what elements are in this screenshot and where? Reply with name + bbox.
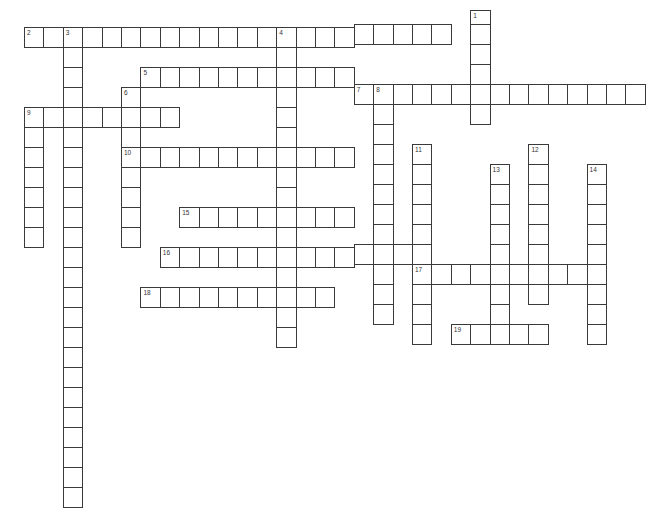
crossword-cell[interactable] bbox=[490, 224, 510, 245]
crossword-cell[interactable] bbox=[82, 107, 102, 128]
crossword-cell[interactable] bbox=[257, 147, 277, 168]
crossword-cell[interactable] bbox=[63, 207, 83, 228]
crossword-cell[interactable] bbox=[63, 487, 83, 508]
crossword-cell[interactable] bbox=[470, 44, 490, 65]
crossword-cell[interactable] bbox=[257, 67, 277, 88]
crossword-cell[interactable] bbox=[412, 24, 432, 45]
crossword-cell[interactable] bbox=[548, 84, 568, 105]
crossword-cell[interactable] bbox=[587, 204, 607, 225]
crossword-cell[interactable] bbox=[490, 304, 510, 325]
crossword-cell[interactable] bbox=[470, 264, 490, 285]
crossword-cell[interactable] bbox=[412, 244, 432, 265]
crossword-cell[interactable] bbox=[160, 67, 180, 88]
crossword-cell[interactable] bbox=[470, 324, 490, 345]
crossword-cell[interactable] bbox=[237, 287, 257, 308]
crossword-cell[interactable] bbox=[63, 147, 83, 168]
crossword-cell[interactable] bbox=[218, 27, 238, 48]
crossword-cell[interactable]: 11 bbox=[412, 144, 432, 165]
crossword-cell[interactable]: 7 bbox=[354, 84, 374, 105]
crossword-cell[interactable] bbox=[431, 24, 451, 45]
crossword-cell[interactable] bbox=[276, 47, 296, 68]
crossword-cell[interactable] bbox=[412, 324, 432, 345]
crossword-cell[interactable] bbox=[606, 84, 626, 105]
crossword-cell[interactable] bbox=[276, 87, 296, 108]
crossword-cell[interactable] bbox=[315, 67, 335, 88]
crossword-cell[interactable] bbox=[528, 284, 548, 305]
crossword-cell[interactable] bbox=[412, 164, 432, 185]
crossword-cell[interactable] bbox=[470, 84, 490, 105]
crossword-cell[interactable] bbox=[63, 127, 83, 148]
crossword-cell[interactable] bbox=[567, 264, 587, 285]
crossword-cell[interactable] bbox=[412, 224, 432, 245]
crossword-cell[interactable] bbox=[490, 244, 510, 265]
crossword-cell[interactable] bbox=[276, 67, 296, 88]
crossword-cell[interactable]: 6 bbox=[121, 87, 141, 108]
crossword-cell[interactable] bbox=[121, 107, 141, 128]
crossword-cell[interactable] bbox=[102, 27, 122, 48]
crossword-cell[interactable] bbox=[354, 24, 374, 45]
crossword-cell[interactable] bbox=[276, 307, 296, 328]
crossword-cell[interactable] bbox=[412, 184, 432, 205]
crossword-cell[interactable] bbox=[528, 264, 548, 285]
crossword-cell[interactable] bbox=[276, 167, 296, 188]
crossword-cell[interactable] bbox=[470, 104, 490, 125]
crossword-cell[interactable] bbox=[199, 287, 219, 308]
crossword-cell[interactable] bbox=[102, 107, 122, 128]
crossword-cell[interactable] bbox=[218, 67, 238, 88]
crossword-cell[interactable] bbox=[63, 407, 83, 428]
crossword-cell[interactable] bbox=[24, 147, 44, 168]
crossword-cell[interactable] bbox=[373, 244, 393, 265]
crossword-cell[interactable] bbox=[334, 207, 354, 228]
crossword-cell[interactable] bbox=[296, 287, 316, 308]
crossword-cell[interactable] bbox=[509, 324, 529, 345]
crossword-cell[interactable] bbox=[63, 167, 83, 188]
crossword-cell[interactable] bbox=[490, 324, 510, 345]
crossword-cell[interactable] bbox=[276, 327, 296, 348]
crossword-cell[interactable] bbox=[451, 84, 471, 105]
crossword-cell[interactable] bbox=[296, 67, 316, 88]
crossword-cell[interactable] bbox=[587, 304, 607, 325]
crossword-cell[interactable] bbox=[373, 264, 393, 285]
crossword-cell[interactable] bbox=[257, 27, 277, 48]
crossword-cell[interactable]: 12 bbox=[528, 144, 548, 165]
crossword-cell[interactable]: 19 bbox=[451, 324, 471, 345]
crossword-cell[interactable]: 4 bbox=[276, 27, 296, 48]
crossword-cell[interactable] bbox=[528, 324, 548, 345]
crossword-cell[interactable] bbox=[412, 304, 432, 325]
crossword-cell[interactable] bbox=[276, 107, 296, 128]
crossword-cell[interactable] bbox=[160, 107, 180, 128]
crossword-cell[interactable] bbox=[218, 247, 238, 268]
crossword-cell[interactable] bbox=[237, 207, 257, 228]
crossword-cell[interactable] bbox=[199, 247, 219, 268]
crossword-cell[interactable] bbox=[393, 24, 413, 45]
crossword-cell[interactable] bbox=[63, 327, 83, 348]
crossword-cell[interactable] bbox=[373, 24, 393, 45]
crossword-cell[interactable] bbox=[490, 84, 510, 105]
crossword-cell[interactable] bbox=[296, 207, 316, 228]
crossword-cell[interactable] bbox=[63, 287, 83, 308]
crossword-cell[interactable] bbox=[470, 64, 490, 85]
crossword-cell[interactable] bbox=[63, 227, 83, 248]
crossword-cell[interactable] bbox=[334, 67, 354, 88]
crossword-cell[interactable] bbox=[373, 284, 393, 305]
crossword-cell[interactable] bbox=[315, 207, 335, 228]
crossword-cell[interactable]: 15 bbox=[179, 207, 199, 228]
crossword-cell[interactable] bbox=[63, 67, 83, 88]
crossword-cell[interactable] bbox=[412, 204, 432, 225]
crossword-cell[interactable] bbox=[179, 287, 199, 308]
crossword-cell[interactable] bbox=[567, 84, 587, 105]
crossword-cell[interactable] bbox=[296, 147, 316, 168]
crossword-cell[interactable] bbox=[587, 184, 607, 205]
crossword-cell[interactable]: 3 bbox=[63, 27, 83, 48]
crossword-cell[interactable] bbox=[160, 147, 180, 168]
crossword-cell[interactable] bbox=[63, 107, 83, 128]
crossword-cell[interactable] bbox=[296, 247, 316, 268]
crossword-cell[interactable] bbox=[24, 127, 44, 148]
crossword-cell[interactable] bbox=[373, 164, 393, 185]
crossword-cell[interactable] bbox=[490, 284, 510, 305]
crossword-cell[interactable] bbox=[63, 307, 83, 328]
crossword-cell[interactable]: 10 bbox=[121, 147, 141, 168]
crossword-cell[interactable] bbox=[24, 227, 44, 248]
crossword-cell[interactable]: 2 bbox=[24, 27, 44, 48]
crossword-cell[interactable] bbox=[140, 27, 160, 48]
